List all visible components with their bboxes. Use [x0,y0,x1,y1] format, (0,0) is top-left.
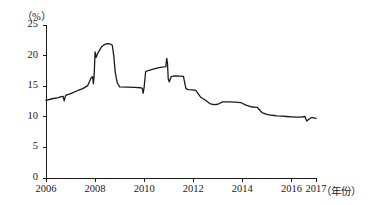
line-chart: （%） （年份） 0510152025200620082010201220142… [0,0,385,205]
x-axis [46,178,316,182]
y-axis-tick-label: 15 [16,79,38,90]
y-axis-tick-label: 25 [16,18,38,29]
x-axis-tick-label: 2012 [173,183,213,194]
x-axis-tick-label: 2008 [75,183,115,194]
y-axis [43,25,47,178]
x-axis-tick-label: 2006 [26,183,66,194]
x-axis-tick-label: 2010 [124,183,164,194]
y-axis-tick-label: 20 [16,49,38,60]
y-axis-tick-label: 10 [16,110,38,121]
plot-area [0,0,385,205]
x-axis-tick-label: 2017 [296,183,336,194]
y-axis-tick-label: 5 [16,140,38,151]
data-series-group [46,44,316,121]
x-axis-tick-label: 2014 [222,183,262,194]
data-series-line [46,44,316,121]
y-axis-tick-label: 0 [16,171,38,182]
